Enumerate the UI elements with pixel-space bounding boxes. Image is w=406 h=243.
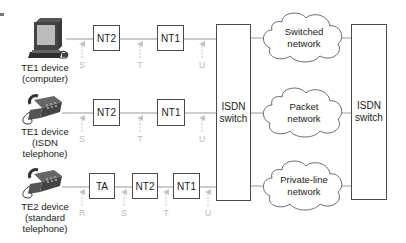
row1-nt2-box: NT2	[93, 25, 120, 51]
box-label: TA	[96, 181, 108, 192]
cloud-label-line2: network	[272, 113, 336, 125]
switch-label-line2: switch	[355, 112, 383, 124]
ref-point-label: U	[197, 134, 207, 144]
cloud-label-line1: Switched	[272, 26, 336, 38]
isdn-switch-left: ISDN switch	[216, 24, 251, 201]
device-label-line: TE1 device	[12, 62, 78, 73]
switch-label-line1: ISDN	[357, 100, 381, 112]
cloud-label-line1: Private-line	[268, 174, 340, 186]
device-label-isdn-telephone: TE1 device (ISDN telephone)	[12, 126, 78, 159]
standard-telephone-icon	[23, 170, 62, 198]
box-label: NT1	[177, 181, 196, 192]
ref-point-label: S	[77, 134, 87, 144]
device-label-standard-telephone: TE2 device (standard telephone)	[12, 201, 78, 234]
box-label: NT2	[136, 181, 155, 192]
row3-nt2-box: NT2	[132, 173, 158, 199]
device-label-computer: TE1 device (computer)	[12, 62, 78, 84]
box-label: NT2	[97, 33, 116, 44]
device-label-line: telephone)	[12, 223, 78, 234]
cloud-private-line-label: Private-line network	[268, 174, 340, 198]
row3-ta-box: TA	[89, 173, 115, 199]
cloud-switched-label: Switched network	[272, 26, 336, 50]
ref-point-label: U	[203, 208, 213, 218]
device-label-line: telephone)	[12, 148, 78, 159]
cloud-label-line1: Packet	[272, 101, 336, 113]
cloud-label-line2: network	[268, 186, 340, 198]
ref-point-label: U	[197, 60, 207, 70]
row3-nt1-box: NT1	[173, 173, 200, 199]
cloud-label-line2: network	[272, 38, 336, 50]
ref-point-label: T	[135, 134, 145, 144]
device-label-line: (standard	[12, 212, 78, 223]
switch-label-line2: switch	[220, 113, 248, 125]
ref-point-label: S	[119, 208, 129, 218]
box-label: NT2	[97, 107, 116, 118]
ref-point-label: T	[161, 208, 171, 218]
device-label-line: TE1 device	[12, 126, 78, 137]
corner-mark	[0, 13, 4, 16]
ref-point-label: T	[135, 60, 145, 70]
isdn-telephone-icon	[23, 96, 62, 124]
ref-point-label: R	[77, 208, 87, 218]
cloud-packet-label: Packet network	[272, 101, 336, 125]
ref-point-label: S	[77, 60, 87, 70]
device-label-line: (computer)	[12, 73, 78, 84]
isdn-switch-right: ISDN switch	[351, 24, 387, 200]
box-label: NT1	[162, 107, 181, 118]
device-label-line: TE2 device	[12, 201, 78, 212]
row2-nt2-box: NT2	[93, 99, 120, 126]
switch-label-line1: ISDN	[222, 101, 246, 113]
row1-nt1-box: NT1	[157, 25, 184, 51]
box-label: NT1	[161, 33, 180, 44]
row2-nt1-box: NT1	[157, 99, 185, 126]
computer-icon	[28, 18, 68, 58]
device-label-line: (ISDN	[12, 137, 78, 148]
